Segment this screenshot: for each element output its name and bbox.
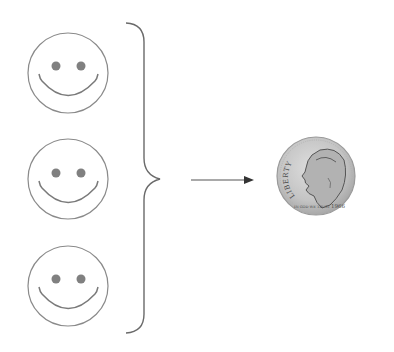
coin-motto: IN GOD WE TRUST: [294, 205, 331, 209]
dime-coin: LIBERTY IN GOD WE TRUST 1966: [277, 137, 355, 215]
smile-mouth: [39, 181, 98, 203]
eye-icon: [52, 62, 61, 71]
curly-brace: [126, 23, 160, 333]
eye-icon: [77, 62, 86, 71]
eye-icon: [77, 169, 86, 178]
eye-icon: [77, 275, 86, 284]
smiley-face-2: [28, 139, 108, 219]
smile-mouth: [39, 74, 98, 96]
diagram-canvas: LIBERTY IN GOD WE TRUST 1966: [0, 0, 394, 352]
eye-icon: [52, 169, 61, 178]
smiley-face-3: [28, 246, 108, 326]
eye-icon: [52, 275, 61, 284]
coin-year: 1966: [331, 203, 345, 209]
smile-mouth: [39, 287, 98, 309]
arrow-right-icon: [191, 176, 254, 184]
smiley-face-1: [28, 33, 108, 113]
